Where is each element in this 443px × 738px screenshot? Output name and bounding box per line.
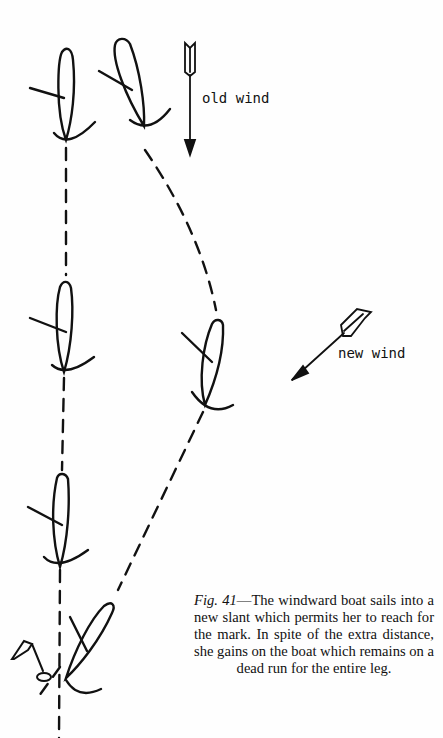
figure-caption: Fig. 41—The windward boat sails into a n… [194,592,434,677]
old-wind-label: old wind [202,90,269,106]
leeward-boat-1 [30,49,95,140]
caption-dash: — [237,592,252,608]
old-wind-arrow-icon [185,43,195,155]
leeward-course-line [59,148,66,738]
windward-boat-1 [99,39,170,126]
windward-boat-2 [182,320,233,409]
leeward-boat-3 [28,474,88,567]
leeward-boat-2 [30,282,94,372]
new-wind-label: new wind [338,345,405,361]
mark-flag-buoy-icon [12,641,51,681]
windward-boat-at-mark [66,603,114,693]
figure-number: Fig. 41 [194,592,237,608]
figure-page: old wind new wind Fig. 41—The windward b… [0,0,443,738]
